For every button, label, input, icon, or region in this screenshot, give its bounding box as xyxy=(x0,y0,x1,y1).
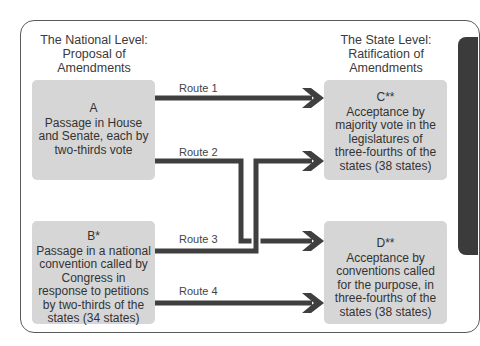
node-letter: C** xyxy=(376,91,394,105)
node-text-line: conventions called xyxy=(336,265,435,279)
node-d-box: D** Acceptance by conventions called for… xyxy=(324,221,447,324)
node-text-line: majority vote in the xyxy=(335,119,436,133)
route-2-line xyxy=(155,161,312,241)
node-text-line: for the purpose, in xyxy=(337,279,434,293)
node-letter: B* xyxy=(87,230,100,244)
route-2-label: Route 2 xyxy=(179,146,218,158)
node-text-line: three-fourths of the xyxy=(335,146,436,160)
node-text-line: two-thirds vote xyxy=(54,144,132,158)
node-a-box: A Passage in House and Senate, each by t… xyxy=(32,80,155,180)
node-text-line: states (38 states) xyxy=(339,160,431,174)
node-text-line: Passage in House xyxy=(45,117,142,131)
route-4-label: Route 4 xyxy=(179,285,218,297)
node-text-line: Congress in xyxy=(61,272,125,286)
node-text-line: Acceptance by xyxy=(346,106,425,120)
node-letter: A xyxy=(89,102,97,116)
node-text-line: response to petitions xyxy=(38,285,149,299)
route-3-label: Route 3 xyxy=(179,233,218,245)
node-text-line: Acceptance by xyxy=(346,252,425,266)
node-c-box: C** Acceptance by majority vote in the l… xyxy=(324,80,447,180)
node-text-line: states (34 states) xyxy=(47,312,139,326)
node-text-line: Passage in a national xyxy=(36,245,151,259)
node-text-line: states (38 states) xyxy=(339,306,431,320)
node-text-line: three-fourths of the xyxy=(335,292,436,306)
node-text-line: by two-thirds of the xyxy=(43,299,144,313)
node-b-box: B* Passage in a national convention call… xyxy=(32,221,155,324)
route-2-line xyxy=(155,161,312,241)
node-text-line: legislatures of xyxy=(348,133,422,147)
node-letter: D** xyxy=(376,237,394,251)
node-text-line: convention called by xyxy=(39,258,148,272)
node-text-line: and Senate, each by xyxy=(38,130,148,144)
route-1-label: Route 1 xyxy=(179,82,218,94)
